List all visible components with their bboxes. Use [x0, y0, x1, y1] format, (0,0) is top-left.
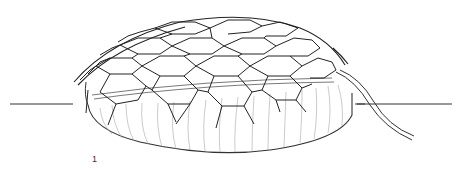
hexagon-grid — [80, 20, 336, 128]
figure-number: 1 — [92, 154, 97, 164]
inflatable-ring — [85, 78, 352, 153]
dome-illustration — [0, 0, 476, 171]
cable — [336, 70, 414, 140]
